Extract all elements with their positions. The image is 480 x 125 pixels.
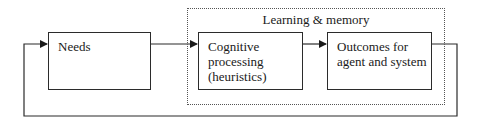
node-cognitive-processing: Cognitive processing (heuristics) xyxy=(198,32,303,90)
node-outcomes: Outcomes for agent and system xyxy=(327,32,432,90)
node-needs-label: Needs xyxy=(58,39,91,54)
group-title: Learning & memory xyxy=(188,12,444,27)
node-outcomes-label: Outcomes for agent and system xyxy=(337,39,427,69)
node-needs: Needs xyxy=(48,32,151,90)
node-cognitive-label: Cognitive processing (heuristics) xyxy=(208,39,266,84)
diagram-canvas: Learning & memory Needs Cognitive proces… xyxy=(0,0,480,125)
